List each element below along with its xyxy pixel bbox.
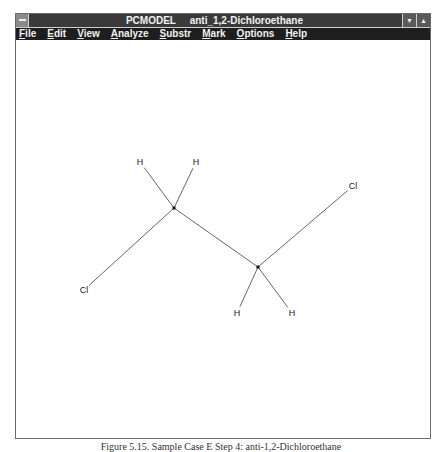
window-title: PCMODEL anti_1,2-Dichloroethane bbox=[29, 14, 400, 27]
figure-caption: Figure 5.15. Sample Case E Step 4: anti-… bbox=[0, 441, 442, 452]
bond-C1-H2[interactable] bbox=[174, 168, 193, 208]
atom-C1-carbon[interactable] bbox=[173, 207, 176, 210]
title-bar[interactable]: PCMODEL anti_1,2-Dichloroethane ▼ ▲ bbox=[16, 14, 430, 28]
menu-view[interactable]: View bbox=[77, 28, 100, 40]
maximize-icon: ▲ bbox=[420, 17, 427, 24]
menu-mark[interactable]: Mark bbox=[202, 28, 225, 40]
system-menu-icon bbox=[19, 19, 26, 21]
menu-help[interactable]: Help bbox=[285, 28, 307, 40]
atom-H4[interactable]: H bbox=[289, 308, 296, 318]
atom-H2[interactable]: H bbox=[193, 157, 200, 167]
bond-C1-C2[interactable] bbox=[174, 208, 258, 267]
menu-edit[interactable]: Edit bbox=[47, 28, 66, 40]
atom-H3[interactable]: H bbox=[234, 308, 241, 318]
minimize-icon: ▼ bbox=[406, 17, 413, 24]
system-menu-button[interactable] bbox=[16, 14, 29, 27]
menu-analyze[interactable]: Analyze bbox=[111, 28, 149, 40]
menu-bar: FileEditViewAnalyzeSubstrMarkOptionsHelp bbox=[16, 28, 430, 40]
bond-C2-H4[interactable] bbox=[258, 267, 288, 307]
atom-Cl2[interactable]: Cl bbox=[349, 181, 358, 191]
maximize-button[interactable]: ▲ bbox=[416, 14, 430, 27]
molecule-canvas[interactable]: HHClClHH bbox=[16, 40, 430, 438]
bond-C1-Cl1[interactable] bbox=[89, 208, 174, 285]
bond-C2-Cl2[interactable] bbox=[258, 191, 348, 267]
pcmodel-window: PCMODEL anti_1,2-Dichloroethane ▼ ▲ File… bbox=[15, 13, 431, 439]
minimize-button[interactable]: ▼ bbox=[402, 14, 416, 27]
atom-Cl1[interactable]: Cl bbox=[80, 285, 89, 295]
menu-substr[interactable]: Substr bbox=[160, 28, 192, 40]
menu-options[interactable]: Options bbox=[237, 28, 275, 40]
bond-C2-H3[interactable] bbox=[240, 267, 258, 307]
menu-file[interactable]: File bbox=[19, 28, 36, 40]
bond-C1-H1[interactable] bbox=[144, 168, 174, 208]
molecule-drawing[interactable]: HHClClHH bbox=[16, 40, 432, 440]
atom-H1[interactable]: H bbox=[137, 157, 144, 167]
atom-C2-carbon[interactable] bbox=[257, 266, 260, 269]
